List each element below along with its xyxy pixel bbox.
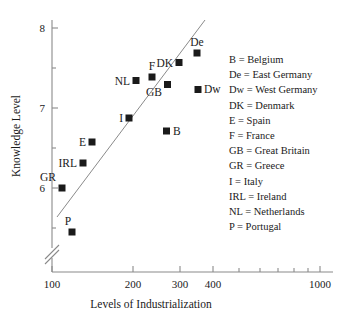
point-label-P: P <box>65 215 71 227</box>
marker-GB <box>164 81 171 88</box>
point-label-F: F <box>149 60 155 72</box>
marker-GR <box>59 185 66 192</box>
marker-E <box>89 139 96 146</box>
point-label-E: E <box>79 136 86 148</box>
legend: B = Belgium De = East Germany Dw = West … <box>229 52 341 234</box>
legend-entry-P: P = Portugal <box>229 219 341 234</box>
x-tick-label-200: 200 <box>125 278 142 290</box>
point-label-B: B <box>173 125 181 137</box>
legend-entry-DK: DK = Denmark <box>229 98 341 113</box>
y-tick-label-8: 8 <box>40 22 46 34</box>
point-label-I: I <box>119 112 123 124</box>
marker-B <box>163 128 170 135</box>
point-label-NL: NL <box>115 75 130 87</box>
marker-I <box>126 115 133 122</box>
y-axis-ticks <box>52 28 58 228</box>
legend-entry-De: De = East Germany <box>229 67 341 82</box>
x-tick-label-400: 400 <box>205 278 222 290</box>
point-label-Dw: Dw <box>204 83 221 95</box>
x-tick-label-1000: 1000 <box>309 278 332 290</box>
legend-entry-NL: NL = Netherlands <box>229 204 341 219</box>
legend-entry-I: I = Italy <box>229 174 341 189</box>
point-label-IRL: IRL <box>58 157 77 169</box>
legend-entry-GR: GR = Greece <box>229 158 341 173</box>
y-axis-title: Knowledge Level <box>10 95 23 177</box>
point-label-De: De <box>190 36 203 48</box>
marker-P <box>69 229 76 236</box>
marker-De <box>194 50 201 57</box>
marker-DK <box>176 59 183 66</box>
scatter-chart: 8 7 6 100 200 300 400 1000 Levels of Ind… <box>0 0 343 323</box>
marker-Dw <box>195 86 202 93</box>
x-axis-ticks <box>52 266 320 272</box>
y-tick-label-7: 7 <box>40 102 46 114</box>
point-label-DK: DK <box>156 57 173 69</box>
legend-entry-Dw: Dw = West Germany <box>229 82 341 97</box>
point-label-GR: GR <box>40 171 56 183</box>
legend-entry-F: F = France <box>229 128 341 143</box>
legend-entry-IRL: IRL = Ireland <box>229 189 341 204</box>
legend-entry-E: E = Spain <box>229 113 341 128</box>
point-label-GB: GB <box>146 86 162 98</box>
y-tick-label-6: 6 <box>40 182 46 194</box>
marker-IRL <box>80 160 87 167</box>
x-tick-label-100: 100 <box>44 278 61 290</box>
legend-entry-B: B = Belgium <box>229 52 341 67</box>
marker-NL <box>133 77 140 84</box>
marker-F <box>149 74 156 81</box>
x-axis-title: Levels of Industrialization <box>90 298 212 310</box>
x-tick-label-300: 300 <box>172 278 189 290</box>
legend-entry-GB: GB = Great Britain <box>229 143 341 158</box>
